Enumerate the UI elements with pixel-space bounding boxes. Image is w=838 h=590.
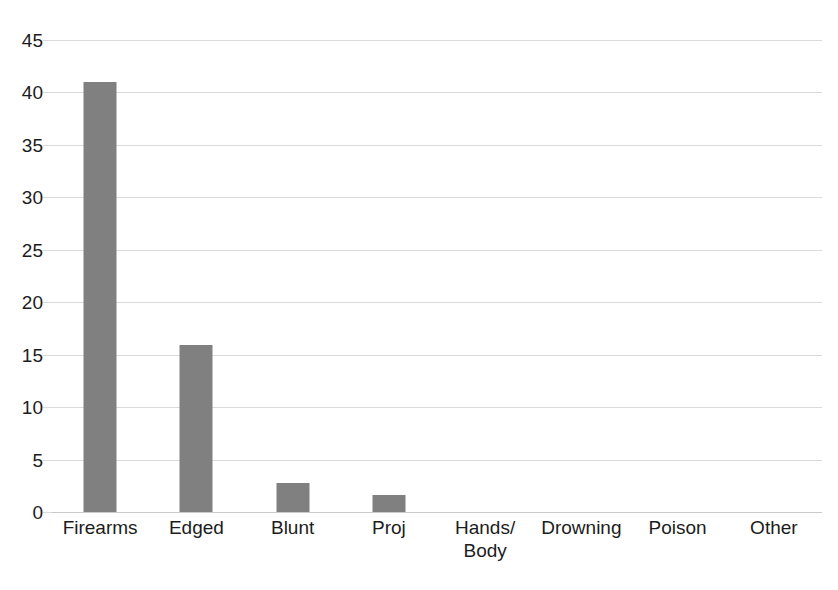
plot-area (52, 40, 822, 512)
y-tick-label: 10 (22, 398, 43, 417)
x-category-label: Drowning (533, 516, 629, 539)
axis-baseline (52, 512, 822, 513)
bar-slot (148, 40, 244, 512)
x-category-label: Blunt (245, 516, 341, 539)
x-category-label: Poison (630, 516, 726, 539)
bar[interactable] (84, 82, 117, 512)
y-tick-mark (43, 40, 52, 41)
bar-slot (437, 40, 533, 512)
bar-slot (245, 40, 341, 512)
bar-series (52, 40, 822, 512)
x-category-label: Proj (341, 516, 437, 539)
y-tick-mark (43, 250, 52, 251)
y-axis-ticks: 051015202530354045 (0, 40, 52, 512)
x-category-label: Hands/ Body (437, 516, 533, 562)
y-tick-label: 40 (22, 83, 43, 102)
x-category-label: Firearms (52, 516, 148, 539)
x-category-label: Edged (148, 516, 244, 539)
y-tick-label: 5 (32, 450, 43, 469)
y-tick-label: 20 (22, 293, 43, 312)
bar[interactable] (180, 345, 213, 512)
y-tick-mark (43, 512, 52, 513)
y-tick-mark (43, 355, 52, 356)
y-tick-label: 45 (22, 31, 43, 50)
bar[interactable] (276, 483, 309, 512)
y-tick-label: 0 (32, 503, 43, 522)
y-tick-mark (43, 197, 52, 198)
bar-slot (533, 40, 629, 512)
bar-slot (630, 40, 726, 512)
y-tick-label: 30 (22, 188, 43, 207)
y-tick-mark (43, 407, 52, 408)
y-tick-label: 35 (22, 135, 43, 154)
bar-slot (341, 40, 437, 512)
y-tick-mark (43, 302, 52, 303)
bar-slot (52, 40, 148, 512)
x-axis-category-labels: FirearmsEdgedBluntProjHands/ BodyDrownin… (52, 516, 822, 586)
y-tick-mark (43, 92, 52, 93)
y-tick-label: 25 (22, 240, 43, 259)
y-tick-label: 15 (22, 345, 43, 364)
bar-slot (726, 40, 822, 512)
bar[interactable] (372, 495, 405, 512)
x-category-label: Other (726, 516, 822, 539)
bar-chart: 051015202530354045 FirearmsEdgedBluntPro… (0, 0, 838, 590)
y-tick-mark (43, 460, 52, 461)
y-tick-mark (43, 145, 52, 146)
